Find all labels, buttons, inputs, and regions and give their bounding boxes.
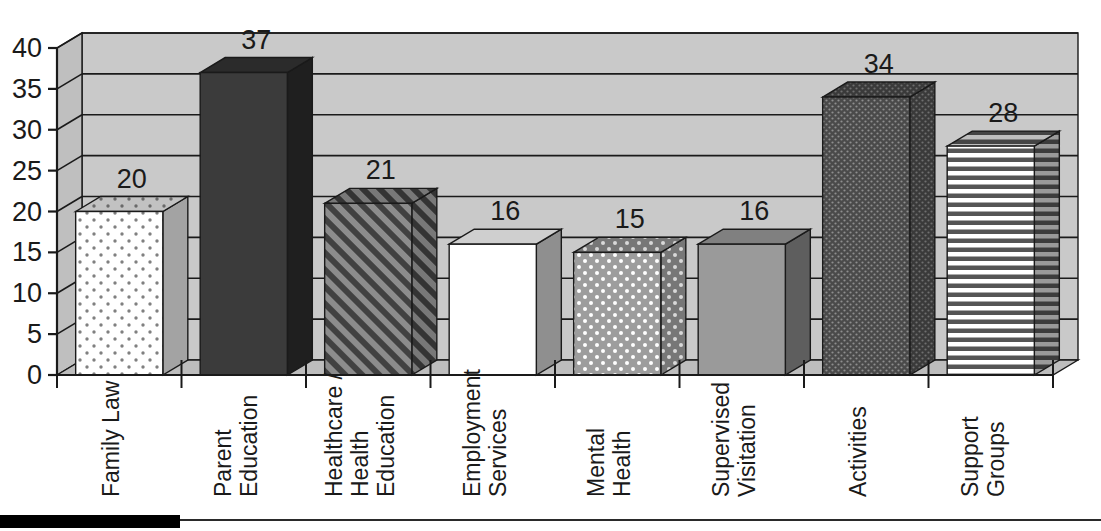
bar xyxy=(76,197,188,376)
chart-canvas: 0510152025303540 2037211615163428 Family… xyxy=(0,0,1101,531)
bar-side-face xyxy=(412,188,437,375)
bar-chart-figure: 0510152025303540 2037211615163428 Family… xyxy=(0,0,1101,531)
category-label: Activities xyxy=(845,406,871,497)
bar-side-face xyxy=(163,197,188,376)
category-label-line: Supervised xyxy=(708,382,734,497)
bar-front-face xyxy=(325,203,412,375)
category-label-line: Services xyxy=(485,409,511,497)
bar xyxy=(200,58,312,375)
bar-front-face xyxy=(947,146,1034,375)
bar-front-face xyxy=(698,244,785,375)
bar-value-label: 28 xyxy=(988,98,1018,128)
category-label: SupportGroups xyxy=(957,416,1009,497)
bar-value-label: 16 xyxy=(739,196,769,226)
category-label-line: Mental xyxy=(583,428,609,497)
bar-side-face xyxy=(910,82,935,375)
category-label-line: Health xyxy=(347,431,373,497)
category-label-line: Visitation xyxy=(734,404,760,497)
category-label: MentalHealth xyxy=(583,428,635,497)
y-tick-label: 10 xyxy=(12,278,42,308)
bar-value-label: 21 xyxy=(366,155,396,185)
bar-front-face xyxy=(574,252,661,375)
bar-value-label: 20 xyxy=(117,164,147,194)
bar xyxy=(698,229,810,375)
bar-side-face xyxy=(536,229,561,375)
y-tick-label: 20 xyxy=(12,197,42,227)
bar xyxy=(947,131,1059,375)
bar-value-label: 37 xyxy=(241,25,271,55)
category-label: Healthcare /HealthEducation xyxy=(321,372,399,497)
category-label: ParentEducation xyxy=(210,395,262,497)
category-label-line: Groups xyxy=(983,422,1009,497)
category-label-line: Parent xyxy=(210,429,236,497)
category-label: SupervisedVisitation xyxy=(708,382,760,497)
y-tick-label: 30 xyxy=(12,115,42,145)
bar-side-face xyxy=(785,229,810,375)
category-label-line: Activities xyxy=(845,406,871,497)
y-tick-label: 0 xyxy=(27,360,42,390)
bar xyxy=(325,188,437,375)
category-label-line: Education xyxy=(373,395,399,497)
bar-value-label: 16 xyxy=(490,196,520,226)
bar xyxy=(823,82,935,375)
category-label-line: Family Law xyxy=(98,380,124,497)
category-label: Family Law xyxy=(98,380,124,497)
category-label-line: Employment xyxy=(459,369,485,497)
y-axis-tick-labels: 0510152025303540 xyxy=(12,33,42,390)
bar-front-face xyxy=(823,97,910,375)
bar-value-label: 15 xyxy=(615,204,645,234)
category-label-line: Support xyxy=(957,416,983,497)
bar-front-face xyxy=(449,244,536,375)
footer-decoration xyxy=(0,515,1101,528)
y-tick-label: 5 xyxy=(27,319,42,349)
bar xyxy=(574,237,686,375)
category-label: EmploymentServices xyxy=(459,369,511,497)
y-tick-label: 40 xyxy=(12,33,42,63)
category-label-line: Health xyxy=(609,431,635,497)
bar-side-face xyxy=(1034,131,1059,375)
bar-value-label: 34 xyxy=(864,49,894,79)
bar-side-face xyxy=(661,237,686,375)
bar-front-face xyxy=(76,212,163,376)
y-tick-label: 15 xyxy=(12,237,42,267)
bar-side-face xyxy=(287,58,312,375)
y-tick-label: 35 xyxy=(12,74,42,104)
bar-front-face xyxy=(200,73,287,375)
y-tick-label: 25 xyxy=(12,156,42,186)
category-label-line: Healthcare / xyxy=(321,372,347,497)
bar xyxy=(449,229,561,375)
x-axis-category-labels: Family LawParentEducationHealthcare /Hea… xyxy=(98,369,1009,497)
footer-swatch xyxy=(0,515,180,528)
category-label-line: Education xyxy=(236,395,262,497)
